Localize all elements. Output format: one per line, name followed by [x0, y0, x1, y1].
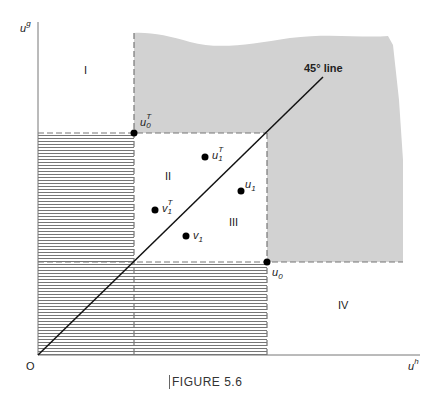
- label-v1T: vT1: [162, 202, 176, 216]
- figure-caption: FIGURE 5.6: [169, 375, 242, 389]
- point-u0: [264, 259, 271, 266]
- label-v1: v1: [193, 229, 203, 241]
- label-u0: u0: [272, 266, 283, 278]
- label-u1T: uT1: [212, 149, 226, 163]
- label-u0T: uT0: [140, 116, 154, 130]
- point-u1T: [202, 154, 209, 161]
- region-label-I: I: [84, 64, 87, 76]
- x-axis-label: uh: [408, 360, 419, 372]
- 45-degree-line-label: 45° line: [304, 62, 343, 74]
- region-label-II: II: [165, 170, 171, 182]
- point-u0T: [131, 130, 138, 137]
- region-label-III: III: [229, 216, 238, 228]
- diagram-canvas: [0, 0, 442, 409]
- point-v1: [183, 233, 190, 240]
- origin-label: O: [26, 360, 35, 372]
- y-axis-label: ug: [20, 22, 31, 34]
- region-label-IV: IV: [338, 299, 348, 311]
- point-u1: [238, 188, 245, 195]
- point-v1T: [152, 207, 159, 214]
- label-u1: u1: [245, 178, 256, 190]
